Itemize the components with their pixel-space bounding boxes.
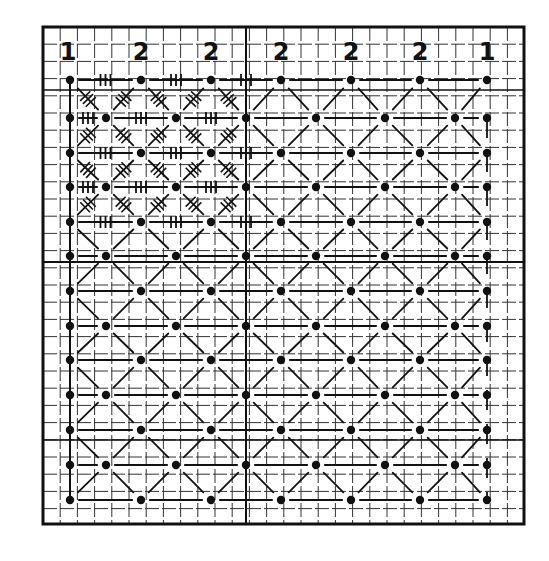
stitch-dot bbox=[312, 391, 320, 399]
diagonal-thread bbox=[114, 473, 134, 493]
diagonal-thread bbox=[324, 88, 344, 109]
stitch-dot bbox=[207, 218, 215, 226]
diagonal-thread bbox=[289, 160, 309, 179]
diagonal-thread bbox=[254, 88, 274, 109]
diagonal-thread bbox=[184, 299, 204, 319]
stitch-dot bbox=[483, 496, 491, 504]
column-label: 1 bbox=[479, 38, 496, 66]
stitch-dot bbox=[416, 496, 424, 504]
diagonal-thread bbox=[462, 160, 480, 179]
diagonal-thread bbox=[324, 473, 344, 493]
stitch-dot bbox=[451, 461, 459, 469]
stitch-dot bbox=[381, 461, 389, 469]
column-label: 2 bbox=[203, 38, 220, 66]
diagonal-thread bbox=[428, 126, 448, 146]
diagonal-thread bbox=[393, 473, 413, 493]
diagonal-thread bbox=[393, 126, 413, 146]
stitch-dot bbox=[312, 461, 320, 469]
stitch-dot bbox=[483, 183, 491, 191]
diagonal-thread bbox=[428, 195, 448, 215]
column-label: 2 bbox=[133, 38, 150, 66]
stitch-dot bbox=[172, 322, 180, 330]
stitch-dot bbox=[483, 356, 491, 364]
column-label: 2 bbox=[412, 38, 429, 66]
diagonal-thread bbox=[358, 229, 377, 248]
diagonal-thread bbox=[289, 88, 309, 109]
diagonal-thread bbox=[462, 299, 480, 319]
diagonal-thread bbox=[393, 229, 413, 248]
stitch-dot bbox=[381, 114, 389, 122]
stitch-dot bbox=[347, 287, 355, 295]
stitch-dot bbox=[451, 183, 459, 191]
stitch-dot bbox=[242, 461, 250, 469]
diagonal-thread bbox=[428, 229, 448, 248]
stitch-dot bbox=[66, 496, 74, 504]
diagonal-thread bbox=[358, 264, 377, 284]
stitch-dot bbox=[207, 356, 215, 364]
diagonal-thread bbox=[324, 229, 344, 248]
stitch-dot bbox=[347, 149, 355, 157]
stitch-dot bbox=[416, 287, 424, 295]
diagonal-thread bbox=[219, 299, 239, 319]
diagonal-thread bbox=[254, 160, 274, 179]
diagonal-thread bbox=[254, 264, 274, 284]
stitch-dot bbox=[416, 356, 424, 364]
stitch-dot bbox=[451, 252, 459, 260]
stitch-dot bbox=[137, 426, 145, 434]
diagonal-thread bbox=[358, 195, 377, 215]
stitch-dot bbox=[277, 287, 285, 295]
stitch-dot bbox=[277, 149, 285, 157]
diagonal-thread bbox=[324, 299, 344, 319]
stitch-dot bbox=[347, 218, 355, 226]
stitch-dot bbox=[381, 391, 389, 399]
diagonal-thread bbox=[149, 229, 169, 248]
diagonal-thread bbox=[289, 264, 309, 284]
stitch-dot bbox=[66, 183, 74, 191]
stitch-dot bbox=[277, 426, 285, 434]
diagonal-thread bbox=[114, 264, 134, 284]
stitch-dot bbox=[137, 496, 145, 504]
stitch-dot bbox=[66, 149, 74, 157]
diagonal-thread bbox=[219, 229, 239, 248]
diagonal-thread bbox=[428, 473, 448, 493]
stitch-dot bbox=[451, 322, 459, 330]
stitch-dot bbox=[102, 114, 110, 122]
diagonal-thread bbox=[289, 299, 309, 319]
stitch-dot bbox=[102, 322, 110, 330]
diagonal-thread bbox=[358, 126, 377, 146]
diagonal-thread bbox=[254, 229, 274, 248]
stitch-dot bbox=[347, 426, 355, 434]
diagonal-thread bbox=[149, 299, 169, 319]
diagonal-thread bbox=[428, 88, 448, 109]
stitch-dot bbox=[483, 76, 491, 84]
stitch-dot bbox=[137, 76, 145, 84]
diagonal-thread bbox=[289, 473, 309, 493]
diagonal-thread bbox=[358, 88, 377, 109]
diagonal-thread bbox=[428, 160, 448, 179]
stitch-dot bbox=[66, 461, 74, 469]
diagonal-thread bbox=[462, 264, 480, 284]
stitch-dot bbox=[277, 76, 285, 84]
diagonal-thread bbox=[289, 195, 309, 215]
stitch-dot bbox=[172, 252, 180, 260]
stitch-dot bbox=[66, 322, 74, 330]
stitch-dot bbox=[102, 183, 110, 191]
diagonal-thread bbox=[358, 299, 377, 319]
stitch-dot bbox=[483, 322, 491, 330]
stitch-dot bbox=[242, 183, 250, 191]
diagonal-thread bbox=[219, 473, 239, 493]
stitch-dot bbox=[66, 356, 74, 364]
diagonal-thread bbox=[358, 160, 377, 179]
diagonal-thread bbox=[324, 195, 344, 215]
stitch-dot bbox=[483, 114, 491, 122]
diagonal-thread bbox=[462, 473, 480, 493]
diagonal-thread bbox=[149, 264, 169, 284]
stitch-dot bbox=[102, 252, 110, 260]
stitch-dot bbox=[381, 322, 389, 330]
stitch-dot bbox=[312, 252, 320, 260]
stitch-dot bbox=[242, 252, 250, 260]
stitch-dot bbox=[66, 287, 74, 295]
column-label: 1 bbox=[60, 38, 77, 66]
stitch-dot bbox=[66, 114, 74, 122]
stitch-dot bbox=[416, 218, 424, 226]
